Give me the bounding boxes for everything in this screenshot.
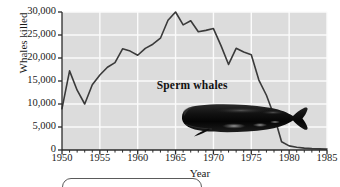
x-tick-label: 1950 [42, 152, 82, 163]
x-tick-label: 1970 [193, 152, 233, 163]
bottom-rounded-box [62, 178, 202, 187]
x-tick-label: 1985 [307, 152, 340, 163]
x-tick-label: 1975 [231, 152, 271, 163]
whales-killed-line-chart: 05,00010,00015,00020,00025,00030,000 195… [0, 0, 340, 187]
x-tick-label: 1965 [156, 152, 196, 163]
y-axis-title: Whales killed [16, 0, 30, 96]
x-tick-label: 1960 [118, 152, 158, 163]
chart-annotation: Sperm whales [157, 79, 228, 91]
x-tick-label-layer: 19501955196019651970197519801985 [0, 0, 340, 187]
x-tick-label: 1955 [80, 152, 120, 163]
x-tick-label: 1980 [269, 152, 309, 163]
